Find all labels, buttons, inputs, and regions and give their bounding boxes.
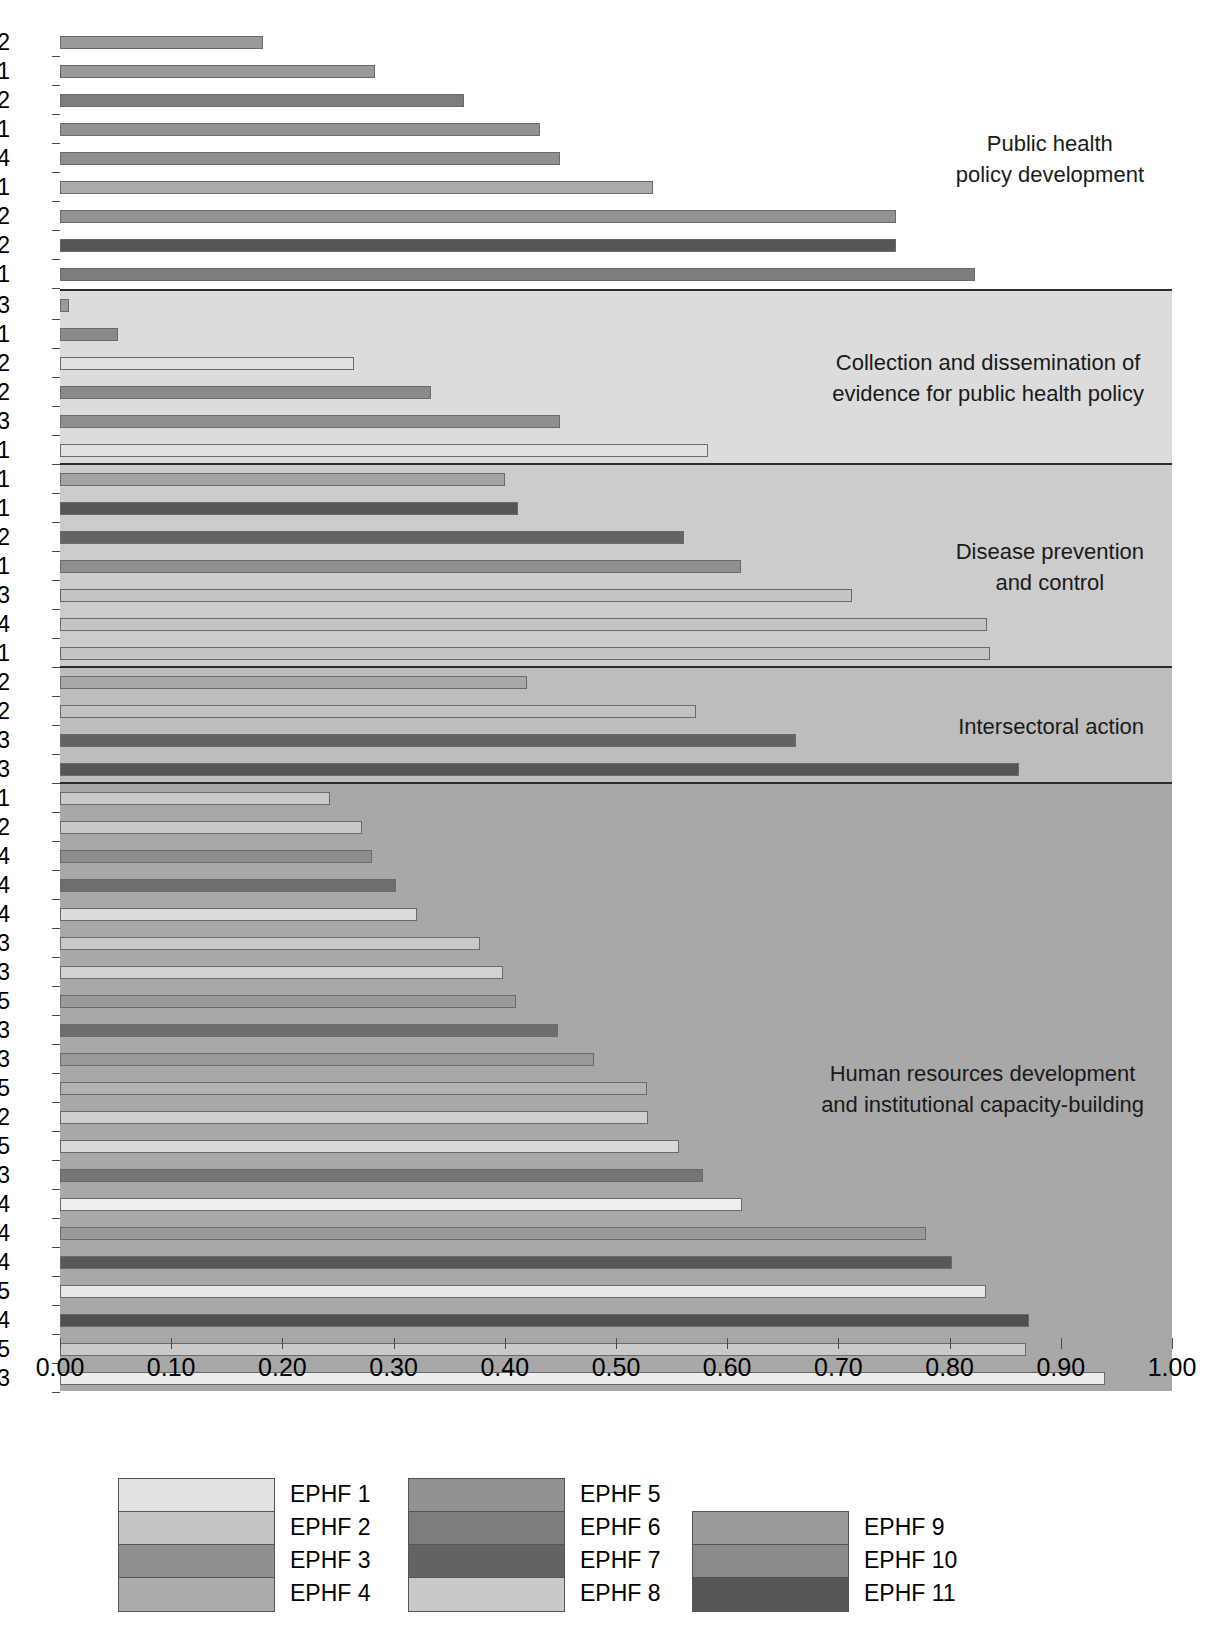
y-axis-tick-label: 1.2 <box>0 349 10 378</box>
chart-bar <box>60 879 396 892</box>
y-axis-tick <box>52 1392 60 1393</box>
y-axis-tick <box>52 493 60 494</box>
chart-bar-row: 9.2 <box>60 28 1172 57</box>
legend-swatch <box>409 1545 564 1578</box>
legend-label: EPHF 9 <box>864 1511 957 1544</box>
y-axis-tick <box>52 201 60 202</box>
chart-bar <box>60 531 684 544</box>
y-axis-tick-label: 8.2 <box>0 813 10 842</box>
chart-bar-row: 7.4 <box>60 1248 1172 1277</box>
y-axis-tick <box>52 812 60 813</box>
chart-bar-row: 10.2 <box>60 378 1172 407</box>
chart-bar <box>60 821 362 834</box>
y-axis-tick-label: 2.4 <box>0 610 10 639</box>
legend-swatch <box>119 1578 274 1611</box>
chart-bar <box>60 966 503 979</box>
x-axis-tick <box>394 1338 395 1349</box>
legend-label: EPHF 2 <box>290 1511 371 1544</box>
chart-bar <box>60 850 372 863</box>
chart-bar-row: 4.3 <box>60 929 1172 958</box>
x-axis-tick <box>950 1338 951 1349</box>
legend-label-stack: EPHF 5EPHF 6EPHF 7EPHF 8 <box>580 1478 661 1610</box>
y-axis-tick <box>52 928 60 929</box>
y-axis-tick-label: 6.3 <box>0 1016 10 1045</box>
legend-label: EPHF 4 <box>290 1577 371 1610</box>
chart-bar-row: 2.3 <box>60 581 1172 610</box>
legend-swatch <box>693 1512 848 1545</box>
y-axis-tick-label: 3.2 <box>0 668 10 697</box>
chart-bar-row: 8.1 <box>60 784 1172 813</box>
chart-bar-row: 4.2 <box>60 697 1172 726</box>
chart-bar-row: 1.5 <box>60 1277 1172 1306</box>
y-axis-tick-label: 4.2 <box>0 697 10 726</box>
legend-swatch <box>409 1578 564 1611</box>
chart-bar-row: 8.4 <box>60 900 1172 929</box>
legend-label: EPHF 10 <box>864 1544 957 1577</box>
x-axis-tick-label: 0.20 <box>227 1352 337 1382</box>
chart-bar-row: 5.4 <box>60 1219 1172 1248</box>
chart-bar-row: 8.3 <box>60 958 1172 987</box>
chart-bar <box>60 94 464 107</box>
x-axis-tick <box>505 1338 506 1349</box>
y-axis-tick-label: 2.3 <box>0 581 10 610</box>
chart-bar-row: 1.1 <box>60 436 1172 465</box>
y-axis-tick <box>52 1189 60 1190</box>
chart-bar <box>60 676 527 689</box>
y-axis-tick <box>52 1247 60 1248</box>
y-axis-tick-label: 6.2 <box>0 86 10 115</box>
y-axis-tick <box>52 1131 60 1132</box>
y-axis-tick <box>52 725 60 726</box>
chart-bar <box>60 1285 986 1298</box>
chart-bar <box>60 1024 558 1037</box>
y-axis-tick <box>52 85 60 86</box>
x-axis-tick <box>727 1338 728 1349</box>
chart-bar-row: 5.3 <box>60 1045 1172 1074</box>
chart-bar-row: 7.1 <box>60 465 1172 494</box>
y-axis-tick-label: 11.2 <box>0 231 10 260</box>
chart-bar-row: 3.2 <box>60 668 1172 697</box>
chart-bar <box>60 36 263 49</box>
chart-bar-row: 3.1 <box>60 552 1172 581</box>
y-axis-tick <box>52 464 60 465</box>
legend-label: EPHF 3 <box>290 1544 371 1577</box>
chart-bar <box>60 444 708 457</box>
legend-swatch <box>119 1545 274 1578</box>
chart-group-band: Public health policy development9.29.16.… <box>60 28 1172 289</box>
y-axis-tick-label: 4.1 <box>0 173 10 202</box>
y-axis-tick <box>52 114 60 115</box>
y-axis-tick-label: 11.4 <box>0 1306 10 1335</box>
y-axis-tick <box>52 696 60 697</box>
chart-bar-row: 8.2 <box>60 813 1172 842</box>
chart-bar-row: 3.4 <box>60 144 1172 173</box>
y-axis-tick-label: 7.2 <box>0 523 10 552</box>
legend-swatch-stack <box>692 1511 849 1612</box>
x-axis-tick <box>616 1338 617 1349</box>
y-axis-tick-label: 6.1 <box>0 260 10 289</box>
chart-bar-row: 9.4 <box>60 842 1172 871</box>
chart-bar-row: 9.1 <box>60 57 1172 86</box>
y-axis-tick-label: 5.4 <box>0 1219 10 1248</box>
chart-bar <box>60 1314 1029 1327</box>
y-axis-tick <box>52 1160 60 1161</box>
chart-bar-row: 1.2 <box>60 349 1172 378</box>
y-axis-tick-label: 3.4 <box>0 144 10 173</box>
legend-label-stack: EPHF 1EPHF 2EPHF 3EPHF 4 <box>290 1478 371 1610</box>
legend-label: EPHF 11 <box>864 1577 957 1610</box>
chart-bar <box>60 1256 952 1269</box>
chart-bar-row: 2.2 <box>60 1103 1172 1132</box>
x-axis-tick-label: 0.90 <box>1006 1352 1116 1382</box>
y-axis-tick <box>52 406 60 407</box>
y-axis-tick <box>52 143 60 144</box>
x-axis-tick-label: 0.80 <box>895 1352 1005 1382</box>
y-axis-tick-label: 11.3 <box>0 755 10 784</box>
chart-bar-row: 11.1 <box>60 494 1172 523</box>
y-axis-tick <box>52 172 60 173</box>
y-axis-tick-label: 7.3 <box>0 726 10 755</box>
chart-bar <box>60 152 560 165</box>
chart-bar <box>60 1053 594 1066</box>
x-axis-tick <box>60 1338 61 1349</box>
y-axis-tick-label: 2.2 <box>0 1103 10 1132</box>
y-axis-tick <box>52 899 60 900</box>
x-axis-tick <box>171 1338 172 1349</box>
y-axis-tick <box>52 870 60 871</box>
